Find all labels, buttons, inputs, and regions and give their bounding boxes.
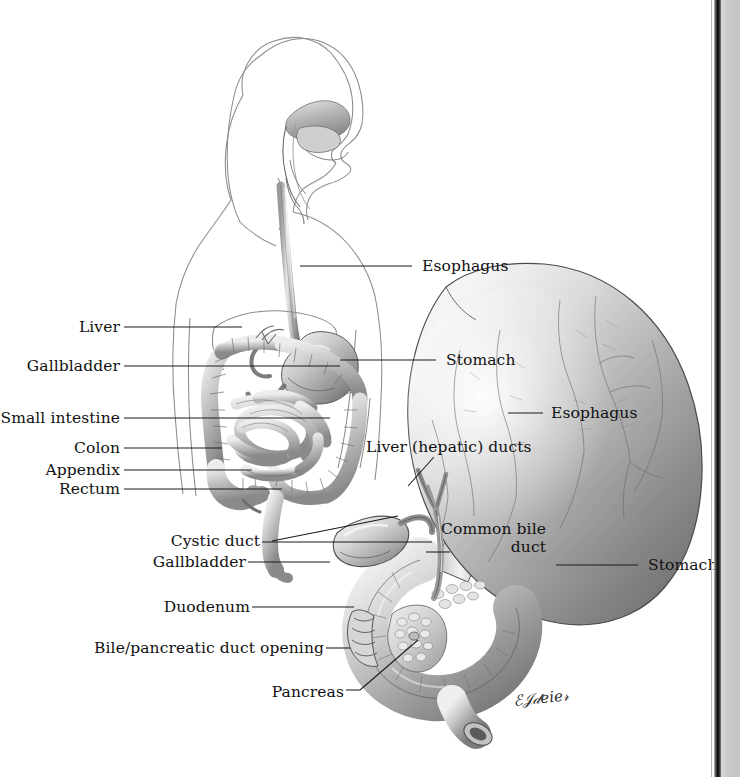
anatomy-plate: ℰ𝒥𝒹𝑒𝑖𝑒𝓇 Liver Gallbladder Small intestin… <box>0 0 740 777</box>
label-bile-pancreatic-duct-opening: Bile/pancreatic duct opening <box>40 639 324 657</box>
label-duodenum: Duodenum <box>100 598 250 616</box>
label-stomach-overview: Stomach <box>446 351 515 369</box>
artist-signature: ℰ𝒥𝒹𝑒𝑖𝑒𝓇 <box>513 686 571 710</box>
label-esophagus-detail: Esophagus <box>551 404 638 422</box>
label-rectum: Rectum <box>0 480 120 498</box>
label-liver-hepatic-ducts: Liver (hepatic) ducts <box>366 438 532 456</box>
label-small-intestine: Small intestine <box>0 409 120 427</box>
label-gallbladder-detail: Gallbladder <box>96 553 246 571</box>
esophagus-overview <box>281 186 298 350</box>
label-gallbladder-overview: Gallbladder <box>0 357 120 375</box>
label-liver: Liver <box>0 318 120 336</box>
book-spine-shadow <box>714 0 721 777</box>
label-colon: Colon <box>0 439 120 457</box>
label-cystic-duct: Cystic duct <box>100 532 260 550</box>
label-esophagus-overview: Esophagus <box>422 257 509 275</box>
label-common-bile-duct: Common bile duct <box>430 521 546 557</box>
label-stomach-detail: Stomach <box>648 556 717 574</box>
anatomy-artwork: ℰ𝒥𝒹𝑒𝑖𝑒𝓇 <box>0 0 740 777</box>
label-appendix: Appendix <box>0 461 120 479</box>
label-common-bile-duct-line2: duct <box>430 539 546 557</box>
label-common-bile-duct-line1: Common bile <box>430 521 546 539</box>
page-gutter-grey <box>721 0 740 777</box>
stomach-detail <box>400 263 702 652</box>
label-pancreas: Pancreas <box>190 683 344 701</box>
page-edge-hairline <box>711 0 712 777</box>
